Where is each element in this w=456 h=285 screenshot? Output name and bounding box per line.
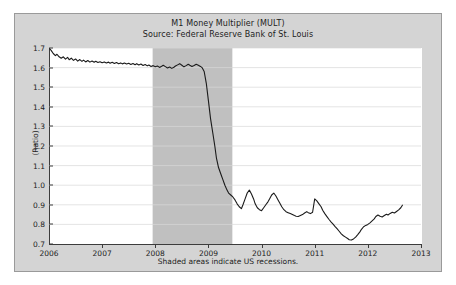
y-tick-label: 1.0 — [33, 181, 45, 190]
y-tick-mark — [49, 244, 53, 245]
x-tick-mark — [262, 244, 263, 248]
y-tick-mark — [49, 146, 53, 147]
x-tick-mark — [102, 244, 103, 248]
y-tick-mark — [49, 165, 53, 166]
chart-subtitle: Source: Federal Reserve Bank of St. Loui… — [15, 29, 441, 40]
y-tick-label: 1.4 — [33, 102, 45, 111]
y-tick-mark — [49, 204, 53, 205]
plot-wrapper: 0.70.80.91.01.11.21.31.41.51.61.7 200620… — [49, 48, 421, 244]
gridlines — [49, 48, 421, 224]
chart-title-block: M1 Money Multiplier (MULT) Source: Feder… — [15, 18, 441, 40]
chart-figure: M1 Money Multiplier (MULT) Source: Feder… — [14, 13, 442, 272]
y-tick-label: 1.7 — [33, 44, 45, 53]
y-tick-label: 0.8 — [33, 220, 45, 229]
y-tick-mark — [49, 48, 53, 49]
x-tick-mark — [315, 244, 316, 248]
chart-footnote: Shaded areas indicate US recessions. — [15, 257, 441, 266]
y-tick-label: 1.5 — [33, 83, 45, 92]
y-tick-label: 1.1 — [33, 161, 45, 170]
y-tick-label: 0.7 — [33, 240, 45, 249]
x-tick-mark — [208, 244, 209, 248]
y-tick-mark — [49, 87, 53, 88]
x-tick-mark — [421, 244, 422, 248]
x-tick-mark — [155, 244, 156, 248]
x-tick-mark — [368, 244, 369, 248]
y-tick-mark — [49, 224, 53, 225]
y-tick-mark — [49, 67, 53, 68]
y-tick-label: 1.2 — [33, 142, 45, 151]
y-tick-mark — [49, 106, 53, 107]
y-tick-label: 1.6 — [33, 63, 45, 72]
y-tick-label: 0.9 — [33, 200, 45, 209]
y-tick-label: 1.3 — [33, 122, 45, 131]
chart-title: M1 Money Multiplier (MULT) — [15, 18, 441, 29]
plot-svg — [49, 48, 421, 244]
y-tick-mark — [49, 126, 53, 127]
y-tick-mark — [49, 185, 53, 186]
